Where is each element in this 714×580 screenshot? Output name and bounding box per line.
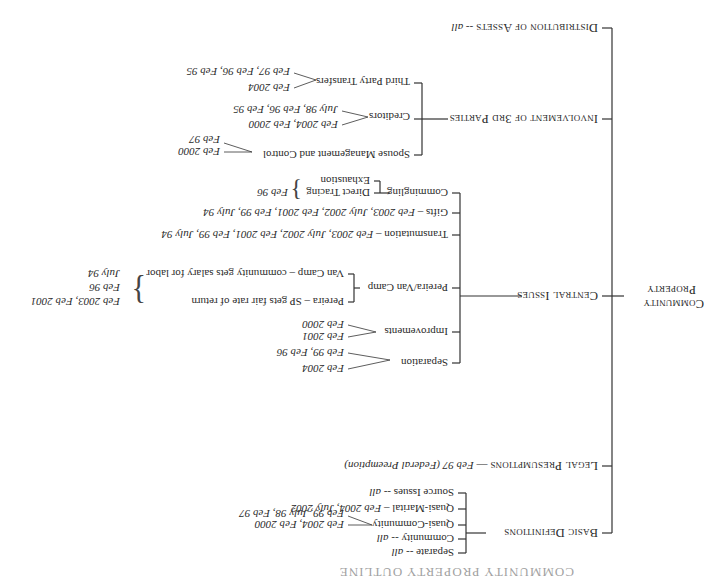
item-pereira-van-camp: Pereira/Van Camp bbox=[368, 282, 448, 294]
item-gifts: Gifts – Feb 2003, July 2002, Feb 2001, F… bbox=[203, 207, 448, 219]
sub-van-camp: Van Camp – community gets salary for lab… bbox=[146, 268, 344, 280]
branch-third-parties: Involvement of 3rd Parties bbox=[449, 113, 598, 125]
separation-dates-1: Feb 2004 bbox=[302, 363, 344, 375]
branch-distribution: Distribution of Assets -- all bbox=[452, 22, 598, 34]
sub-exhaustion: Exhaustion bbox=[321, 175, 371, 187]
item-improvements: Improvements bbox=[384, 326, 448, 338]
spouse-management-dates-1: Feb 2000 bbox=[178, 146, 220, 158]
separation-dates-2: Feb 99, Feb 96 bbox=[277, 347, 344, 359]
item-separation: Separation bbox=[401, 357, 448, 369]
pereira-dates-2: Feb 96 bbox=[89, 282, 120, 294]
brace-icon: } bbox=[132, 275, 146, 308]
commingling-dates: Feb 96 bbox=[257, 187, 288, 199]
item-spouse-management: Spouse Management and Control bbox=[263, 149, 410, 161]
sub-pereira: Pereira – SP gets fair rate of return bbox=[191, 296, 344, 308]
pereira-dates-1: Feb 2003, Feb 2001 bbox=[31, 296, 120, 308]
item-creditors: Creditors bbox=[369, 111, 410, 123]
item-commingling: Commingling bbox=[387, 187, 448, 199]
creditors-dates-1: Feb 2004, Feb 2000 bbox=[249, 119, 338, 131]
root-label-line2: Property bbox=[647, 284, 696, 296]
root-label-line1: Community bbox=[643, 298, 704, 310]
spouse-management-dates-2: Feb 97 bbox=[189, 134, 220, 146]
branch-legal-presumptions: Legal Presumptions — Feb 97 (Federal Pre… bbox=[344, 460, 598, 472]
sub-direct-tracing: Direct Tracing bbox=[306, 187, 370, 199]
item-separate: Separate -- all bbox=[392, 547, 454, 559]
branch-central-issues: Central Issues bbox=[517, 290, 598, 302]
item-community: Community -- all bbox=[377, 533, 454, 545]
improvements-dates-1: Feb 2001 bbox=[302, 331, 344, 343]
branch-basic-definitions: Basic Definitions bbox=[504, 527, 598, 539]
improvements-dates-2: Feb 2000 bbox=[302, 319, 344, 331]
brace-icon-commingling: } bbox=[290, 179, 302, 203]
item-third-party-transfers: Third Party Transfers bbox=[316, 76, 410, 88]
pereira-dates-3: July 94 bbox=[88, 268, 120, 280]
transfers-dates-2: Feb 97, Feb 96, Feb 95 bbox=[186, 66, 290, 78]
quasi-community-dates-1: Feb 2004, Feb 2000 bbox=[255, 519, 344, 531]
transfers-dates-1: Feb 2004 bbox=[248, 82, 290, 94]
creditors-dates-2: July 98, Feb 96, Feb 95 bbox=[233, 104, 338, 116]
item-quasi-marital: Quasi-Marital – Feb 2004, July 2002 bbox=[291, 503, 454, 515]
item-quasi-community: Quasi-Community bbox=[372, 519, 454, 531]
item-transmutation: Transmutation – Feb 2003, July 2002, Feb… bbox=[162, 229, 448, 241]
item-source-issues: Source Issues -- all bbox=[369, 487, 454, 499]
